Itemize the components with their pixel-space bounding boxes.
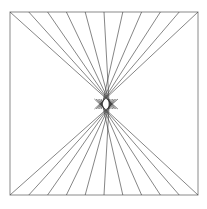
- top-ray-6: [101, 12, 123, 109]
- top-ray-9: [96, 12, 179, 109]
- top-ray-0: [10, 12, 118, 109]
- bottom-ray-6: [101, 99, 123, 195]
- bottom-ray-9: [96, 99, 179, 195]
- bottom-ray-0: [10, 99, 118, 195]
- bottom-fan-lines: [10, 99, 198, 195]
- top-fan-lines: [10, 12, 198, 109]
- bottom-ray-7: [99, 99, 141, 195]
- bottom-ray-10: [94, 99, 198, 195]
- top-ray-8: [98, 12, 161, 109]
- top-ray-1: [29, 12, 116, 109]
- top-ray-7: [100, 12, 142, 109]
- square-frame: [10, 12, 198, 195]
- bottom-ray-1: [29, 99, 116, 195]
- diagram-canvas: [0, 0, 207, 209]
- top-ray-10: [94, 12, 198, 109]
- hourglass-string-art: [0, 0, 207, 209]
- bottom-ray-8: [98, 99, 161, 195]
